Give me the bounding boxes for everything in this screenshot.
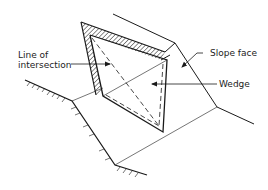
- wedge-failure-diagram: [0, 0, 268, 190]
- label-line-of-intersection-line1: Line of: [18, 50, 71, 60]
- label-slope-face: Slope face: [210, 48, 257, 58]
- ground-surface: [25, 80, 147, 177]
- label-line-of-intersection-line2: intersection: [18, 60, 71, 70]
- leader-slope-face: [182, 53, 203, 67]
- label-line-of-intersection: Line of intersection: [18, 50, 71, 70]
- label-wedge: Wedge: [219, 79, 250, 89]
